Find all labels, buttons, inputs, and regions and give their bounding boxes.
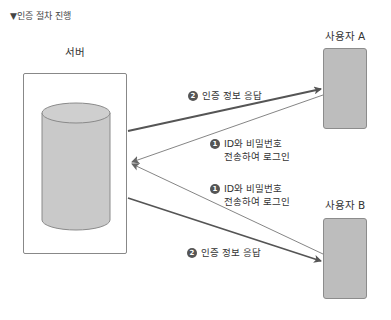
step-response-b: 2인증 정보 응답: [187, 246, 261, 259]
step-text: 인증 정보 응답: [202, 90, 262, 101]
step-badge: 2: [187, 248, 197, 258]
step-text-line1: ID와 비밀번호: [224, 183, 282, 194]
step-login-b: 1ID와 비밀번호 전송하여 로그인: [210, 182, 290, 208]
step-badge: 1: [210, 139, 220, 149]
step-response-a: 2인증 정보 응답: [188, 89, 262, 102]
diagram-connectors: [0, 0, 391, 320]
step-text-line1: ID와 비밀번호: [224, 138, 282, 149]
step-text-line2: 전송하여 로그인: [210, 195, 290, 208]
step-text: 인증 정보 응답: [201, 247, 261, 258]
step-badge: 2: [188, 91, 198, 101]
step-badge: 1: [210, 184, 220, 194]
step-text-line2: 전송하여 로그인: [210, 150, 290, 163]
step-login-a: 1ID와 비밀번호 전송하여 로그인: [210, 137, 290, 163]
database-cylinder-icon: [42, 103, 110, 230]
